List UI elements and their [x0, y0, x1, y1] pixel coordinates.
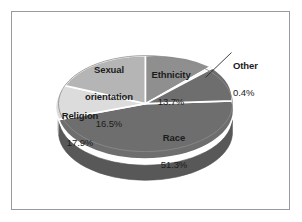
slice-label-religion: Religion 17.9% — [49, 94, 111, 165]
slice-label-sexual-orientation-line1: Sexual — [73, 65, 145, 75]
slice-label-religion-name: Religion — [49, 111, 111, 121]
slice-label-race-percent: 51.3% — [145, 160, 203, 170]
slice-label-race: Race 51.3% — [145, 116, 203, 187]
slice-label-other-percent: 0.4% — [233, 88, 281, 98]
slice-label-ethnicity-percent: 13.7% — [141, 97, 201, 107]
slice-label-other-name: Other — [233, 61, 281, 71]
slice-label-religion-percent: 17.9% — [49, 138, 111, 148]
slice-label-race-name: Race — [145, 133, 203, 143]
pie-chart-figure: Sexual orientation 16.5% Ethnicity 13.7%… — [0, 0, 302, 222]
slice-label-other: Other 0.4% — [233, 44, 281, 115]
slice-label-ethnicity-name: Ethnicity — [141, 70, 201, 80]
slice-label-ethnicity: Ethnicity 13.7% — [141, 53, 201, 124]
